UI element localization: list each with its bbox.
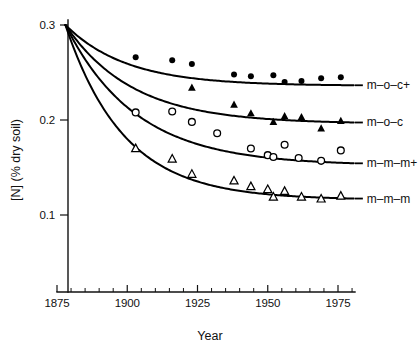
- data-point-m-m-m+: [169, 108, 176, 115]
- data-point-m-m-m+: [295, 155, 302, 162]
- y-axis-ticks: [60, 25, 68, 215]
- chart-axes: [57, 20, 355, 292]
- x-tick-label: 1925: [185, 297, 210, 309]
- data-point-m-o-c: [317, 124, 325, 131]
- data-point-m-o-c: [337, 117, 345, 124]
- data-point-m-m-m: [230, 176, 238, 184]
- curve-m-o-c+: [65, 25, 353, 85]
- data-point-m-m-m+: [281, 141, 288, 148]
- legend-item-m-o-c: m–o–c: [355, 115, 403, 129]
- data-point-m-o-c+: [248, 73, 254, 79]
- chart-data-markers: [132, 54, 345, 202]
- x-tick-label: 1975: [326, 297, 351, 309]
- data-point-m-m-m: [188, 170, 196, 178]
- data-point-m-m-m: [337, 192, 345, 200]
- data-point-m-o-c: [247, 109, 255, 116]
- y-axis-title: [N] (% dry soil): [9, 119, 23, 201]
- data-point-m-m-m: [247, 182, 255, 190]
- data-point-m-o-c+: [338, 74, 344, 80]
- data-point-m-o-c+: [298, 78, 304, 84]
- y-tick-label: 0.1: [40, 209, 55, 221]
- legend-label: m–m–m+: [367, 156, 417, 170]
- x-tick-label: 1900: [115, 297, 140, 309]
- y-axis-tick-labels: 0.10.20.3: [40, 19, 55, 221]
- data-point-m-m-m+: [132, 109, 139, 116]
- data-point-m-o-c+: [282, 79, 288, 85]
- x-axis-tick-labels: 18751900192519501975: [45, 297, 351, 309]
- legend-label: m–o–c+: [367, 78, 410, 92]
- curve-m-m-m+: [65, 25, 353, 163]
- x-tick-label: 1875: [45, 297, 70, 309]
- data-point-m-o-c+: [231, 71, 237, 77]
- data-point-m-m-m+: [188, 119, 195, 126]
- y-tick-label: 0.2: [40, 114, 55, 126]
- x-axis-title: Year: [197, 329, 222, 343]
- legend-label: m–o–c: [367, 115, 403, 129]
- data-point-m-m-m: [168, 155, 176, 163]
- legend-item-m-m-m: m–m–m: [355, 192, 410, 206]
- data-point-m-o-c: [281, 112, 289, 119]
- data-point-m-m-m: [281, 187, 289, 195]
- data-point-m-m-m+: [337, 147, 344, 154]
- legend-item-m-o-c+: m–o–c+: [355, 78, 410, 92]
- legend-item-m-m-m+: m–m–m+: [355, 156, 417, 170]
- data-point-m-m-m+: [247, 145, 254, 152]
- data-point-m-o-c: [188, 84, 196, 91]
- nitrogen-decline-chart: 0.10.20.3 18751900192519501975 m–o–c+m–o…: [0, 0, 419, 354]
- data-point-m-m-m+: [318, 157, 325, 164]
- legend-label: m–m–m: [367, 192, 410, 206]
- x-tick-label: 1950: [255, 297, 280, 309]
- data-point-m-m-m+: [214, 130, 221, 137]
- chart-figure: 0.10.20.3 18751900192519501975 m–o–c+m–o…: [0, 0, 419, 354]
- data-point-m-o-c+: [270, 72, 276, 78]
- chart-legend: m–o–c+m–o–cm–m–m+m–m–m: [355, 78, 417, 205]
- data-point-m-o-c+: [189, 61, 195, 67]
- data-point-m-o-c+: [133, 54, 139, 60]
- data-point-m-o-c: [230, 101, 238, 108]
- x-axis-ticks: [57, 285, 352, 292]
- data-point-m-o-c: [298, 113, 306, 120]
- chart-curves: [65, 25, 353, 199]
- data-point-m-m-m: [264, 185, 272, 193]
- data-point-m-o-c+: [318, 75, 324, 81]
- data-point-m-m-m+: [270, 154, 277, 161]
- curve-m-o-c: [65, 25, 353, 122]
- y-tick-label: 0.3: [40, 19, 55, 31]
- data-point-m-o-c+: [169, 57, 175, 63]
